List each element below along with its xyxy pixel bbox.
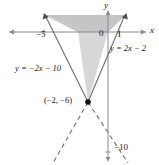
x-axis-label: x bbox=[150, 26, 154, 35]
origin-label: 0 bbox=[99, 29, 104, 38]
equation-label-line-left: y = −2x − 10 bbox=[15, 64, 61, 73]
graph-figure: y x 0 1 −5 −10 y = 2x − 2 y = −2x − 10 (… bbox=[0, 0, 159, 165]
y-tick-label-neg10: −10 bbox=[114, 143, 128, 152]
graph-svg bbox=[0, 0, 159, 165]
equation-label-line-right: y = 2x − 2 bbox=[110, 44, 146, 53]
shaded-region-above-axis bbox=[44, 15, 126, 32]
intersection-point-dot bbox=[85, 99, 91, 105]
x-tick-label-neg5: −5 bbox=[36, 30, 46, 39]
x-tick-label-1: 1 bbox=[117, 30, 122, 39]
intersection-point-label: (−2, −6) bbox=[44, 96, 72, 105]
y-axis-label: y bbox=[104, 1, 108, 10]
